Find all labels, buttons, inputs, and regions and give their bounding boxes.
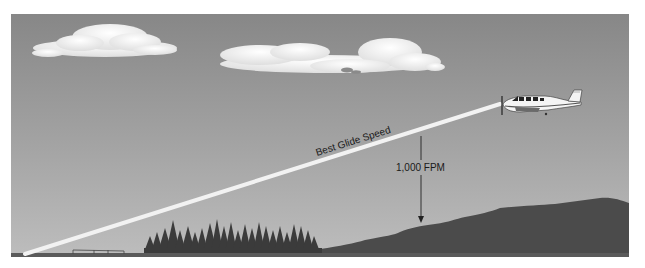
glide-diagram: Best Glide Speed 1,000 FPM (0, 0, 645, 268)
descent-rate-label: 1,000 FPM (396, 162, 445, 173)
ground-line (11, 253, 629, 257)
